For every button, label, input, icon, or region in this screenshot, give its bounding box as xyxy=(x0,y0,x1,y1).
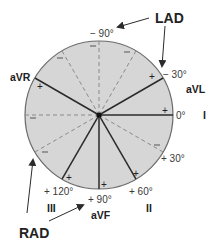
plus-mark-5: + xyxy=(66,172,72,183)
degree-label-plus-90: + 90° xyxy=(88,195,112,205)
rad-arrow-to-plus150 xyxy=(27,160,33,213)
plus-mark-4: + xyxy=(101,179,107,190)
degree-label-minus-90: − 90° xyxy=(90,29,114,39)
degree-label-plus-30: + 30° xyxy=(161,154,185,164)
degree-label-0: 0° xyxy=(176,111,186,121)
lead-label-i: I xyxy=(203,110,206,121)
degree-label-plus-60: + 60° xyxy=(129,187,153,197)
center-point xyxy=(96,112,101,117)
plus-mark-1: + xyxy=(149,71,155,82)
lad-arrow-to-minus30 xyxy=(162,26,165,66)
lead-label-avl: aVL xyxy=(186,84,205,95)
lad-annotation: LAD xyxy=(155,11,184,25)
rad-annotation: RAD xyxy=(19,226,49,240)
lad-arrow-to-minus90 xyxy=(118,18,149,27)
plus-mark-0: + xyxy=(162,105,168,116)
lead-label-ii: II xyxy=(146,203,152,214)
lead-label-avf: aVF xyxy=(91,210,110,221)
plus-mark-3: + xyxy=(133,168,139,179)
degree-label-plus-120: + 120° xyxy=(44,187,73,197)
degree-label-minus-30: − 30° xyxy=(163,70,187,80)
lead-label-avr: aVR xyxy=(10,72,30,83)
lead-label-iii: III xyxy=(47,203,56,214)
hexaxial-diagram: ++++++ 0° − 30° + 60° + 90° + 120° − 90°… xyxy=(0,0,216,242)
plus-mark-2: + xyxy=(37,81,43,92)
